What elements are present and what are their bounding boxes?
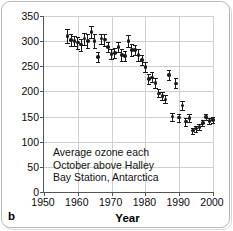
panel-label: b bbox=[8, 210, 15, 222]
axis-labels-layer: 0501001502002503003501950196019701980199… bbox=[0, 0, 233, 231]
x-axis-title: Year bbox=[43, 212, 212, 224]
y-tick-label: 100 bbox=[6, 137, 39, 147]
annotation-line-3: Bay Station, Antarctica bbox=[53, 171, 159, 184]
annotation-line-1: Average ozone each bbox=[53, 146, 159, 159]
y-tick-label: 150 bbox=[6, 112, 39, 122]
y-tick-label: 300 bbox=[6, 36, 39, 46]
chart-annotation: Average ozone each October above Halley … bbox=[53, 146, 159, 184]
figure-panel: 0501001502002503003501950196019701980199… bbox=[0, 0, 233, 231]
y-tick-label: 200 bbox=[6, 86, 39, 96]
y-tick-label: 50 bbox=[6, 162, 39, 172]
y-tick-label: 350 bbox=[6, 11, 39, 21]
annotation-line-2: October above Halley bbox=[53, 159, 159, 172]
x-tick-label: 2000 bbox=[192, 197, 232, 208]
y-tick-label: 250 bbox=[6, 61, 39, 71]
